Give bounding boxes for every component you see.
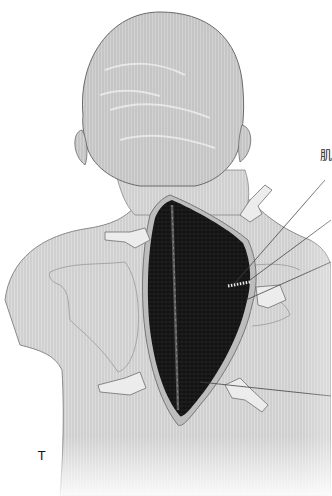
structure-label: 肌 — [320, 150, 332, 162]
figure-letter-label: T — [38, 450, 45, 462]
head — [75, 12, 251, 186]
